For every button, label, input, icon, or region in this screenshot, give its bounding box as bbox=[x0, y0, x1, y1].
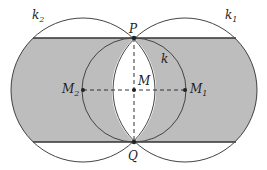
point-P bbox=[132, 36, 137, 41]
label-M: M bbox=[137, 74, 151, 88]
point-Q bbox=[132, 140, 137, 145]
label-k1: k1 bbox=[225, 8, 237, 24]
point-M2 bbox=[81, 88, 85, 92]
label-P: P bbox=[128, 22, 138, 36]
label-k2: k2 bbox=[32, 8, 44, 24]
geometry-diagram: k2 k1 k P Q M M1 M2 bbox=[0, 0, 267, 170]
point-M bbox=[132, 88, 136, 92]
label-k: k bbox=[161, 52, 168, 66]
label-Q: Q bbox=[128, 149, 138, 163]
point-M1 bbox=[183, 88, 187, 92]
